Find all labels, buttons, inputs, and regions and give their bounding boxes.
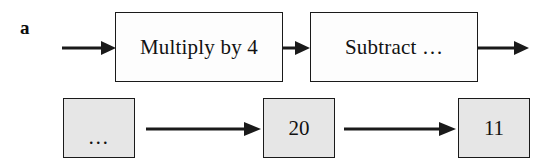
between-process-arrow-icon (283, 39, 311, 57)
value-box-20[interactable]: 20 (263, 98, 335, 158)
value-box-11[interactable]: 11 (458, 98, 530, 158)
function-machine-diagram: a Multiply by 4 Subtract … … 20 11 (0, 0, 540, 164)
value-arrow-1-icon (146, 120, 262, 138)
value-box-20-label: 20 (289, 116, 310, 141)
process-box-subtract[interactable]: Subtract … (310, 12, 478, 82)
process-box-multiply[interactable]: Multiply by 4 (115, 12, 283, 82)
output-arrow-icon (478, 39, 530, 57)
value-box-11-label: 11 (484, 116, 504, 141)
panel-label-a: a (20, 18, 30, 37)
value-arrow-2-icon (344, 120, 457, 138)
input-arrow-icon (62, 39, 117, 57)
process-box-multiply-label: Multiply by 4 (140, 35, 258, 60)
process-box-subtract-label: Subtract … (345, 35, 443, 60)
value-box-unknown-label: … (88, 125, 111, 150)
value-box-unknown[interactable]: … (63, 98, 135, 158)
